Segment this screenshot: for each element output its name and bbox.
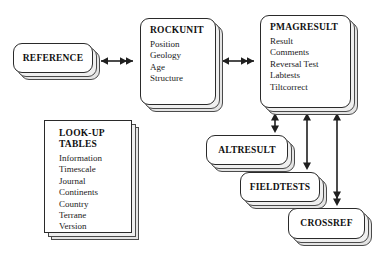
- pmagresult-field-reversal-test: Reversal Test: [270, 59, 342, 70]
- lookup-field-continents: Continents: [59, 187, 123, 198]
- pmagresult-field-result: Result: [270, 36, 342, 47]
- rockunit-field-geology: Geology: [150, 50, 207, 61]
- node-lookup-tables-title: LOOK-UP TABLES: [59, 128, 123, 150]
- lookup-field-journal: Journal: [59, 176, 123, 187]
- node-fieldtests[interactable]: FIELDTESTS: [240, 172, 320, 202]
- node-rockunit-title: ROCKUNIT: [150, 25, 207, 36]
- lookup-field-version: Version: [59, 221, 123, 232]
- connector-pmagresult-fieldtests: [303, 113, 311, 170]
- node-reference-title: REFERENCE: [23, 53, 83, 64]
- node-pmagresult-title: PMAGRESULT: [270, 22, 342, 33]
- node-altresult-title: ALTRESULT: [218, 145, 276, 156]
- connector-pmagresult-crossref: [333, 113, 341, 206]
- node-fieldtests-title: FIELDTESTS: [250, 182, 311, 193]
- connector-pmagresult-altresult: [271, 113, 279, 133]
- connector-rockunit-pmagresult: [222, 57, 254, 65]
- node-reference[interactable]: REFERENCE: [13, 43, 93, 73]
- pmagresult-field-comments: Comments: [270, 47, 342, 58]
- node-crossref[interactable]: CROSSREF: [288, 208, 365, 239]
- node-pmagresult-fields: Result Comments Reversal Test Labtests T…: [270, 36, 342, 93]
- lookup-field-information: Information: [59, 153, 123, 164]
- pmagresult-field-tiltcorrect: Tiltcorrect: [270, 82, 342, 93]
- entity-relationship-diagram: REFERENCE ROCKUNIT Position Geology Age …: [0, 0, 372, 255]
- rockunit-field-position: Position: [150, 39, 207, 50]
- node-pmagresult[interactable]: PMAGRESULT Result Comments Reversal Test…: [260, 15, 351, 108]
- node-lookup-tables[interactable]: LOOK-UP TABLES Information Timescale Jou…: [44, 120, 132, 233]
- pmagresult-field-labtests: Labtests: [270, 70, 342, 81]
- node-rockunit[interactable]: ROCKUNIT Position Geology Age Structure: [140, 18, 216, 105]
- rockunit-field-structure: Structure: [150, 73, 207, 84]
- node-crossref-title: CROSSREF: [300, 218, 352, 229]
- lookup-field-terrane: Terrane: [59, 210, 123, 221]
- node-altresult[interactable]: ALTRESULT: [206, 135, 288, 165]
- node-lookup-tables-fields: Information Timescale Journal Continents…: [59, 153, 123, 233]
- lookup-field-timescale: Timescale: [59, 164, 123, 175]
- lookup-field-country: Country: [59, 199, 123, 210]
- node-rockunit-fields: Position Geology Age Structure: [150, 39, 207, 85]
- rockunit-field-age: Age: [150, 62, 207, 73]
- connector-reference-rockunit: [101, 57, 133, 65]
